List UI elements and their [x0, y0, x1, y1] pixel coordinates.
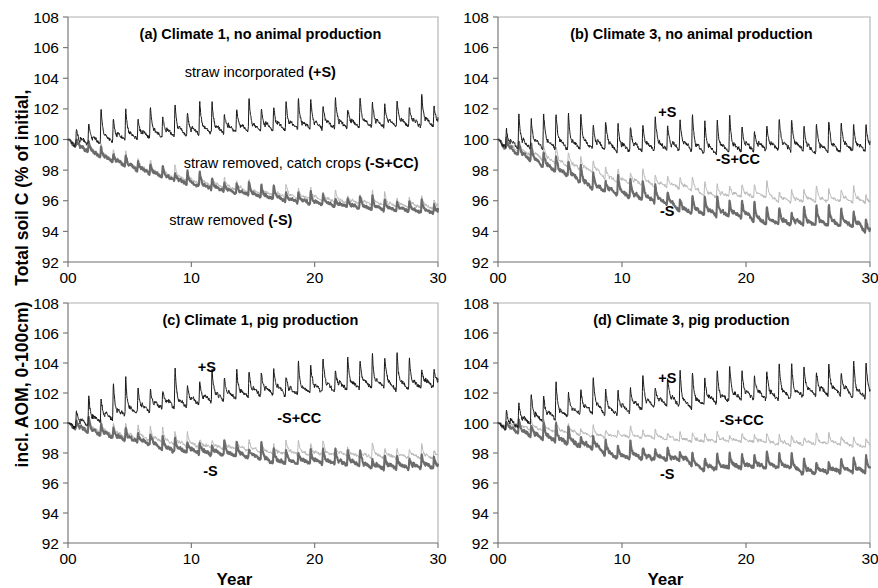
annotation-b-2: -S — [660, 203, 675, 219]
series-line-minusS — [498, 419, 870, 474]
panel-title-b: (b) Climate 3, no animal production — [570, 26, 813, 42]
series-line-plusS — [68, 94, 438, 146]
y-tick-label: 104 — [33, 355, 59, 372]
x-tick-label: 30 — [861, 550, 878, 567]
x-tick-label: 00 — [59, 269, 77, 286]
annotation-code: (+S) — [308, 64, 336, 80]
x-tick-label: 00 — [489, 269, 507, 286]
y-tick-label: 102 — [463, 385, 489, 402]
x-tick-label: 20 — [306, 550, 324, 567]
y-tick-label: 100 — [33, 131, 59, 148]
y-axis-label-part2: incl. AOM, 0-100cm) — [12, 302, 33, 468]
axis-frame-top-right — [68, 303, 438, 543]
axis-spines — [498, 303, 870, 543]
x-axis-label-c: Year — [217, 570, 253, 588]
y-tick-label: 94 — [472, 223, 490, 240]
annotation-d-0: +S — [658, 370, 676, 386]
annotation-a-2: straw removed (-S) — [169, 212, 292, 228]
annotation-code: (-S+CC) — [365, 155, 419, 171]
series-line-minusS — [68, 417, 438, 471]
annotation-c-1: -S+CC — [277, 410, 321, 426]
figure-canvas: 9294969810010210410610800102030(a) Clima… — [0, 0, 878, 588]
panel-a: 9294969810010210410610800102030(a) Clima… — [33, 9, 447, 287]
y-tick-label: 108 — [463, 295, 489, 312]
panel-b: 9294969810010210410610800102030(b) Clima… — [463, 9, 878, 287]
y-tick-label: 106 — [463, 325, 489, 342]
series-line-minusS — [68, 139, 438, 214]
y-tick-label: 102 — [33, 100, 59, 117]
y-tick-label: 108 — [463, 9, 489, 26]
x-tick-label: 20 — [306, 269, 324, 286]
series-line-minusScc — [68, 139, 438, 209]
y-tick-label: 102 — [33, 385, 59, 402]
y-tick-label: 104 — [463, 355, 489, 372]
y-tick-label: 98 — [42, 445, 59, 462]
y-tick-label: 104 — [463, 70, 489, 87]
x-tick-label: 10 — [183, 550, 201, 567]
x-tick-label: 30 — [429, 550, 447, 567]
panel-title-c: (c) Climate 1, pig production — [163, 312, 359, 328]
annotation-a-0: straw incorporated (+S) — [185, 64, 336, 80]
panel-title-a: (a) Climate 1, no animal production — [140, 26, 382, 42]
annotation-text: straw incorporated — [185, 64, 308, 80]
axis-spines — [68, 303, 438, 543]
y-tick-label: 94 — [42, 505, 60, 522]
axis-frame-top-right — [498, 303, 870, 543]
x-tick-label: 10 — [183, 269, 201, 286]
y-tick-label: 106 — [463, 39, 489, 56]
annotation-d-1: -S+CC — [720, 412, 764, 428]
annotation-code: (-S) — [268, 212, 292, 228]
annotation-d-2: -S — [660, 466, 675, 482]
y-tick-label: 98 — [472, 162, 489, 179]
annotation-text: straw removed — [169, 212, 268, 228]
annotation-c-2: -S — [203, 463, 218, 479]
x-tick-label: 20 — [737, 269, 755, 286]
x-tick-label: 20 — [737, 550, 755, 567]
x-tick-label: 30 — [861, 269, 878, 286]
y-tick-label: 94 — [42, 223, 60, 240]
x-tick-label: 10 — [613, 550, 631, 567]
y-tick-label: 100 — [463, 415, 489, 432]
x-tick-label: 00 — [489, 550, 507, 567]
y-tick-label: 92 — [42, 254, 59, 271]
y-tick-label: 92 — [472, 535, 489, 552]
annotation-text: straw removed, catch crops — [184, 155, 365, 171]
y-tick-label: 92 — [42, 535, 59, 552]
y-tick-label: 100 — [33, 415, 59, 432]
y-tick-label: 106 — [33, 325, 59, 342]
y-axis-label: incl. AOM, 0-100cm)Total soil C (% of in… — [12, 0, 33, 559]
x-axis-label-d: Year — [647, 570, 683, 588]
y-axis-label-part1: Total soil C (% of initial, — [12, 90, 33, 286]
series-line-plusS — [498, 361, 870, 430]
panel-c: 9294969810010210410610800102030(c) Clima… — [33, 295, 447, 568]
annotation-b-1: -S+CC — [716, 151, 760, 167]
annotation-b-0: +S — [658, 104, 676, 120]
y-tick-label: 104 — [33, 70, 59, 87]
series-line-minusScc — [498, 419, 870, 448]
y-tick-label: 98 — [42, 162, 59, 179]
y-tick-label: 106 — [33, 39, 59, 56]
series-line-plusS — [498, 113, 870, 155]
x-tick-label: 00 — [59, 550, 77, 567]
annotation-a-1: straw removed, catch crops (-S+CC) — [184, 155, 419, 171]
panel-d: 9294969810010210410610800102030(d) Clima… — [463, 295, 878, 568]
y-tick-label: 108 — [33, 295, 59, 312]
y-tick-label: 94 — [472, 505, 490, 522]
y-tick-label: 96 — [42, 192, 59, 209]
y-tick-label: 102 — [463, 100, 489, 117]
x-tick-label: 10 — [613, 269, 631, 286]
y-tick-label: 96 — [42, 475, 59, 492]
y-tick-label: 92 — [472, 254, 489, 271]
y-tick-label: 100 — [463, 131, 489, 148]
y-tick-label: 96 — [472, 475, 489, 492]
y-tick-label: 98 — [472, 445, 489, 462]
y-tick-label: 108 — [33, 9, 59, 26]
annotation-c-0: +S — [198, 359, 216, 375]
y-tick-label: 96 — [472, 192, 489, 209]
series-line-plusS — [68, 353, 438, 429]
panel-title-d: (d) Climate 3, pig production — [593, 312, 790, 328]
x-tick-label: 30 — [429, 269, 447, 286]
